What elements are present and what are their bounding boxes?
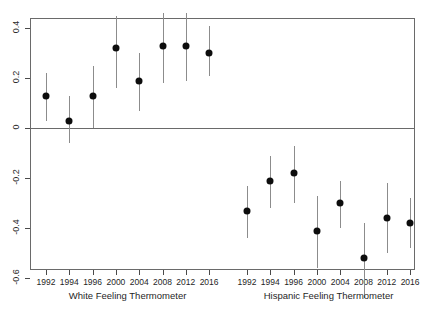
x-tick-label: 1996 [284, 277, 303, 287]
y-tick-label: -0.6 [11, 264, 21, 290]
data-point [43, 92, 50, 99]
x-tick-mark [387, 270, 388, 275]
x-tick-mark [93, 270, 94, 275]
x-tick-mark [46, 270, 47, 275]
x-tick-mark [209, 270, 210, 275]
plot-frame [30, 18, 415, 270]
y-tick-label: 0.4 [11, 14, 21, 40]
data-point [206, 50, 213, 57]
x-tick-label: 2004 [130, 277, 149, 287]
x-tick-mark [410, 270, 411, 275]
y-tick-mark [25, 228, 30, 229]
y-tick-mark [25, 178, 30, 179]
x-tick-mark [186, 270, 187, 275]
x-tick-label: 1994 [261, 277, 280, 287]
x-tick-mark [139, 270, 140, 275]
x-tick-label: 2000 [106, 277, 125, 287]
x-tick-mark [116, 270, 117, 275]
data-point [66, 117, 73, 124]
y-tick-mark [25, 278, 30, 279]
data-point [159, 42, 166, 49]
error-bar [116, 16, 117, 89]
x-axis-group-label-white: White Feeling Thermometer [69, 290, 187, 301]
x-tick-label: 2008 [153, 277, 172, 287]
x-tick-mark [270, 270, 271, 275]
y-tick-mark [25, 78, 30, 79]
x-tick-mark [317, 270, 318, 275]
x-tick-mark [163, 270, 164, 275]
data-point [267, 177, 274, 184]
x-tick-label: 1994 [60, 277, 79, 287]
y-tick-label: -0.2 [11, 164, 21, 190]
y-tick-mark [25, 28, 30, 29]
data-point [112, 45, 119, 52]
x-tick-label: 2000 [307, 277, 326, 287]
x-axis-group-label-hispanic: Hispanic Feeling Thermometer [264, 290, 394, 301]
y-tick-label: -0.4 [11, 214, 21, 240]
data-point [182, 42, 189, 49]
y-tick-mark [25, 128, 30, 129]
data-point [383, 215, 390, 222]
y-tick-label: 0.2 [11, 64, 21, 90]
data-point [360, 255, 367, 262]
chart-container: 0.40.20-0.2-0.4-0.6 19921994199620002004… [0, 0, 428, 317]
data-point [313, 227, 320, 234]
x-tick-label: 2016 [401, 277, 420, 287]
data-point [290, 170, 297, 177]
data-point [89, 92, 96, 99]
x-tick-label: 1992 [37, 277, 56, 287]
x-tick-mark [294, 270, 295, 275]
x-tick-label: 2012 [377, 277, 396, 287]
x-tick-label: 2004 [331, 277, 350, 287]
y-tick-label: 0 [11, 114, 21, 140]
x-tick-mark [69, 270, 70, 275]
data-point [136, 77, 143, 84]
x-tick-label: 2012 [176, 277, 195, 287]
x-tick-label: 1992 [238, 277, 257, 287]
x-tick-label: 2016 [200, 277, 219, 287]
data-point [337, 200, 344, 207]
data-point [244, 207, 251, 214]
data-point [407, 220, 414, 227]
x-tick-mark [247, 270, 248, 275]
x-tick-mark [340, 270, 341, 275]
x-tick-label: 1996 [83, 277, 102, 287]
zero-reference-line [30, 128, 415, 129]
